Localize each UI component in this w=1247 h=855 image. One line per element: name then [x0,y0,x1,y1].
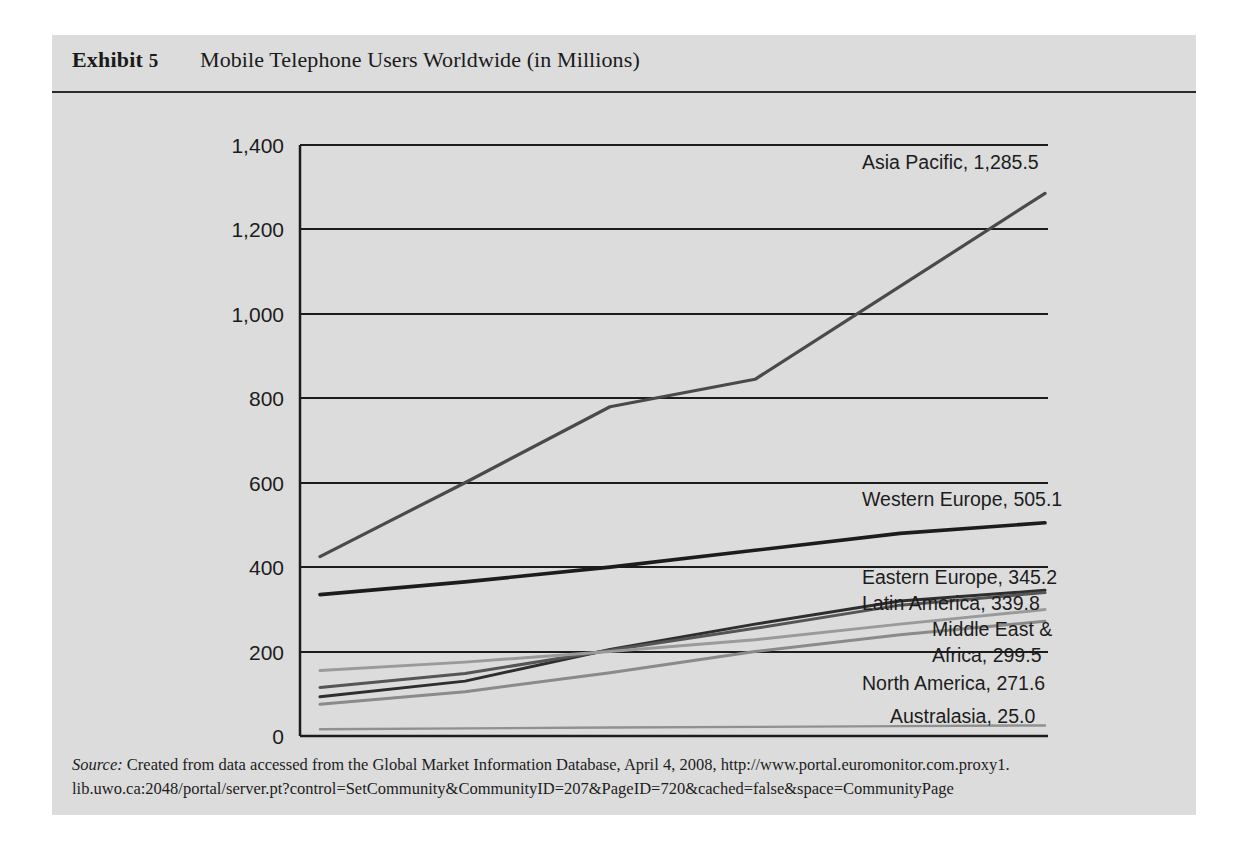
series-label-north-america: North America, 271.6 [862,672,1045,694]
ytick-0: 0 [272,725,284,748]
ytick-400: 400 [249,556,284,579]
source-note: Source: Created from data accessed from … [72,753,1182,801]
ytick-1000: 1,000 [231,303,284,326]
ytick-800: 800 [249,387,284,410]
series-label-asia-pacific: Asia Pacific, 1,285.5 [862,151,1039,173]
ytick-1400: 1,400 [231,134,284,157]
series-label-latin-america: Latin America, 339.8 [862,592,1040,614]
exhibit-number: 5 [149,50,159,71]
source-prefix: Source: [72,755,123,774]
ytick-600: 600 [249,472,284,495]
series-label-middle-east-africa-line1: Middle East & [932,618,1052,640]
exhibit-label-text: Exhibit [72,47,143,72]
chart-svg: 1,400 1,200 1,000 800 600 400 200 0 2002… [52,95,1196,755]
title-divider [52,91,1196,93]
exhibit-title-bar: Exhibit 5 Mobile Telephone Users Worldwi… [52,35,1196,92]
series-label-western-europe: Western Europe, 505.1 [862,488,1062,510]
line-chart: 1,400 1,200 1,000 800 600 400 200 0 2002… [52,95,1196,755]
exhibit-panel: Exhibit 5 Mobile Telephone Users Worldwi… [52,35,1196,815]
ytick-200: 200 [249,641,284,664]
exhibit-label: Exhibit 5 [72,47,159,73]
source-line-2: lib.uwo.ca:2048/portal/server.pt?control… [72,779,954,798]
page-title: Mobile Telephone Users Worldwide (in Mil… [200,47,640,73]
series-label-australasia: Australasia, 25.0 [890,705,1035,727]
series-label-middle-east-africa-line2: Africa, 299.5 [932,644,1042,666]
source-line-1: Created from data accessed from the Glob… [123,755,1010,774]
series-label-eastern-europe: Eastern Europe, 345.2 [862,566,1057,588]
ytick-1200: 1,200 [231,218,284,241]
